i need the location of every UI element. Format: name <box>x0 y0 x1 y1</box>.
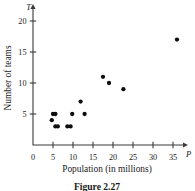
data-point <box>70 112 74 116</box>
axis-tick-labels: 051015202530355101520 <box>18 17 177 162</box>
y-tick-label-20: 20 <box>18 17 26 26</box>
x-tick-label-35: 35 <box>169 153 177 162</box>
figure-container: 051015202530355101520 T P Population (in… <box>0 0 195 191</box>
y-tick-label-10: 10 <box>18 79 26 88</box>
data-point <box>56 124 60 128</box>
data-point <box>175 37 179 41</box>
data-point <box>50 118 54 122</box>
data-point <box>53 112 57 116</box>
x-tick-label-10: 10 <box>69 153 77 162</box>
x-tick-label-30: 30 <box>149 153 157 162</box>
y-axis-symbol: T <box>26 2 32 12</box>
y-axis-title: Number of teams <box>3 45 13 110</box>
data-point <box>121 87 125 91</box>
y-tick-label-15: 15 <box>18 48 26 57</box>
data-point <box>82 112 86 116</box>
x-tick-label-5: 5 <box>51 153 55 162</box>
data-points <box>50 37 180 128</box>
data-point <box>101 75 105 79</box>
scatter-plot: 051015202530355101520 T P Population (in… <box>0 0 195 191</box>
x-tick-label-25: 25 <box>129 153 137 162</box>
x-tick-label-20: 20 <box>109 153 117 162</box>
x-axis-symbol: P <box>185 149 192 159</box>
x-tick-label-0: 0 <box>31 153 35 162</box>
figure-caption: Figure 2.27 <box>74 181 120 191</box>
x-axis-title: Population (in millions) <box>62 164 152 175</box>
data-point <box>107 81 111 85</box>
data-point <box>78 99 82 103</box>
x-tick-label-15: 15 <box>89 153 97 162</box>
axis-ticks <box>30 21 173 148</box>
y-tick-label-5: 5 <box>22 110 26 119</box>
data-point <box>68 124 72 128</box>
